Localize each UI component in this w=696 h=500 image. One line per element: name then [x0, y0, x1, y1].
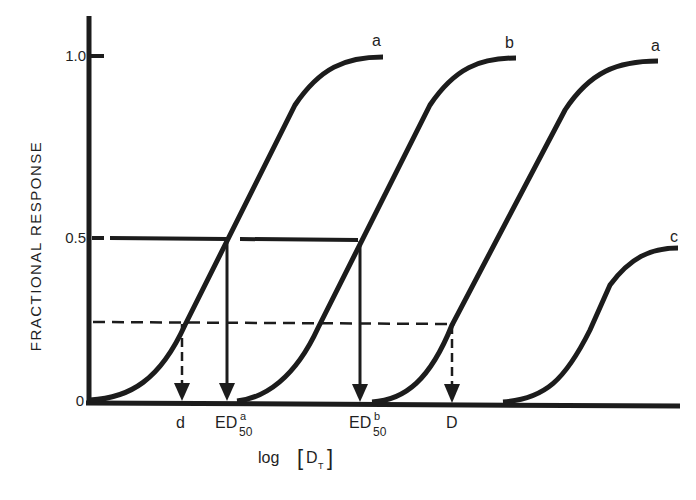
svg-text:a: a — [240, 410, 247, 422]
y-tick-labels: 1.0 0.5 0 — [65, 47, 86, 409]
half-response-line-a — [110, 238, 227, 239]
svg-text:50: 50 — [373, 425, 387, 439]
x-marker-D: D — [446, 414, 458, 431]
curve-b — [237, 58, 516, 401]
curve-a-first — [90, 57, 383, 400]
y-tick-label-0: 0 — [76, 392, 84, 409]
x-marker-ed50a: ED a 50 — [215, 410, 253, 439]
svg-text:[: [ — [297, 445, 303, 470]
dose-response-chart: a b a c 1.0 0.5 0 FRACTIONAL RESPONSE d … — [0, 0, 696, 500]
svg-text:log: log — [258, 449, 279, 466]
curve-a-second — [372, 61, 658, 402]
arrow-D-icon — [444, 384, 460, 403]
y-tick-label-0.5: 0.5 — [65, 229, 86, 246]
x-axis-label: log [ D T ] — [258, 445, 333, 471]
curve-label-a-second: a — [651, 37, 660, 54]
svg-text:T: T — [318, 461, 324, 471]
curves — [90, 57, 678, 402]
half-response-line-b — [240, 239, 358, 240]
svg-text:b: b — [374, 410, 380, 422]
arrow-d-icon — [174, 383, 190, 401]
arrow-ed50a-icon — [219, 383, 235, 401]
curve-c — [503, 248, 678, 402]
partial-response-dashed-line — [93, 322, 455, 324]
x-marker-ed50b: ED b 50 — [349, 410, 387, 439]
curve-label-a-first: a — [372, 32, 381, 49]
arrow-ed50b-icon — [352, 384, 368, 402]
arrowheads — [174, 383, 460, 403]
reference-lines — [93, 238, 455, 386]
y-tick-label-1: 1.0 — [65, 47, 86, 64]
svg-text:]: ] — [327, 445, 333, 470]
curve-label-c: c — [670, 228, 678, 245]
svg-text:50: 50 — [239, 425, 253, 439]
x-marker-labels: d ED a 50 ED b 50 D — [176, 410, 458, 439]
x-axis — [86, 403, 680, 406]
curve-label-b: b — [505, 34, 514, 51]
svg-text:D: D — [306, 449, 318, 466]
svg-text:ED: ED — [215, 414, 237, 431]
svg-text:ED: ED — [349, 414, 371, 431]
x-marker-d: d — [176, 414, 185, 431]
y-axis-label: FRACTIONAL RESPONSE — [27, 141, 44, 351]
